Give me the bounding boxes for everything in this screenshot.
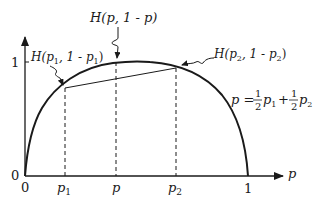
y-label-1: 1 [11, 55, 19, 70]
x-label-p: p [112, 180, 121, 195]
x-axis-label: p [288, 166, 297, 181]
svg-text:+: + [278, 92, 289, 107]
svg-text:1: 1 [291, 88, 297, 99]
x-label-p1: p1 [57, 180, 71, 197]
svg-text:p2: p2 [299, 92, 312, 109]
x-label-p2: p2 [168, 180, 182, 197]
entropy-curve [25, 61, 248, 176]
leader-h-p2 [182, 58, 214, 65]
leader-h-p1 [50, 66, 63, 85]
label-h-p2: H(p2, 1 - p2) [213, 47, 286, 63]
label-h-p: H(p, 1 - p) [89, 10, 157, 25]
svg-text:2: 2 [291, 101, 297, 112]
svg-text:p =: p = [231, 92, 254, 107]
x-label-1: 1 [244, 181, 252, 196]
svg-text:p1: p1 [263, 92, 276, 109]
y-label-0: 0 [11, 168, 19, 183]
formula: p = 1 2 p1 + 1 2 p2 [231, 88, 312, 112]
x-label-0: 0 [21, 180, 29, 195]
label-h-p1: H(p1, 1 - p1) [30, 50, 103, 66]
leader-h-p [112, 27, 118, 58]
svg-text:2: 2 [255, 101, 261, 112]
entropy-diagram: H(p, 1 - p) H(p1, 1 - p1) H(p2, 1 - p2) … [0, 0, 317, 206]
svg-text:1: 1 [255, 88, 261, 99]
